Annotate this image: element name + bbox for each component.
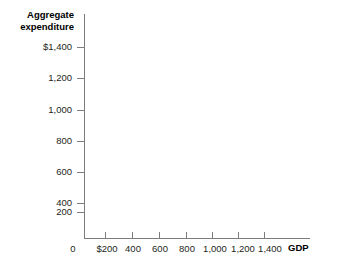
y-tick-600 bbox=[77, 172, 84, 173]
x-axis-title: GDP bbox=[288, 242, 309, 253]
x-tick-label-1400: 1,400 bbox=[258, 243, 282, 254]
y-tick-label-200: 200 bbox=[56, 207, 72, 217]
y-axis-title-line-2: expenditure bbox=[0, 21, 74, 33]
y-axis-title-line-1: Aggregate bbox=[0, 9, 74, 21]
x-axis-origin-label: 0 bbox=[70, 243, 75, 254]
x-tick-label-200: $200 bbox=[96, 243, 117, 254]
x-tick-label-1200: 1,200 bbox=[231, 243, 255, 254]
x-tick-600 bbox=[159, 232, 160, 238]
y-tick-400 bbox=[77, 203, 84, 204]
plot-area bbox=[85, 14, 310, 238]
x-tick-400 bbox=[132, 232, 133, 238]
y-tick-label-800: 800 bbox=[56, 136, 72, 146]
x-tick-label-800: 800 bbox=[179, 243, 195, 254]
x-tick-800 bbox=[186, 232, 187, 238]
y-tick-label-1200: 1,200 bbox=[48, 73, 72, 83]
y-tick-1400 bbox=[77, 47, 84, 48]
y-tick-1200 bbox=[77, 78, 84, 79]
aggregate-expenditure-chart: Aggregate expenditure $1,400 1,200 1,000… bbox=[0, 0, 344, 270]
x-tick-label-400: 400 bbox=[125, 243, 141, 254]
y-axis-title: Aggregate expenditure bbox=[0, 9, 74, 32]
x-axis-line bbox=[84, 238, 310, 239]
y-tick-label-1000: 1,000 bbox=[48, 105, 72, 115]
y-tick-label-1400: $1,400 bbox=[43, 42, 72, 52]
y-tick-800 bbox=[77, 141, 84, 142]
y-tick-200 bbox=[77, 212, 84, 213]
x-tick-label-1000: 1,000 bbox=[203, 243, 227, 254]
y-tick-label-600: 600 bbox=[56, 167, 72, 177]
x-tick-200 bbox=[105, 232, 106, 238]
y-tick-1000 bbox=[77, 110, 84, 111]
x-tick-label-600: 600 bbox=[152, 243, 168, 254]
x-tick-1200 bbox=[238, 232, 239, 238]
x-tick-1000 bbox=[212, 232, 213, 238]
x-tick-1400 bbox=[264, 232, 265, 238]
